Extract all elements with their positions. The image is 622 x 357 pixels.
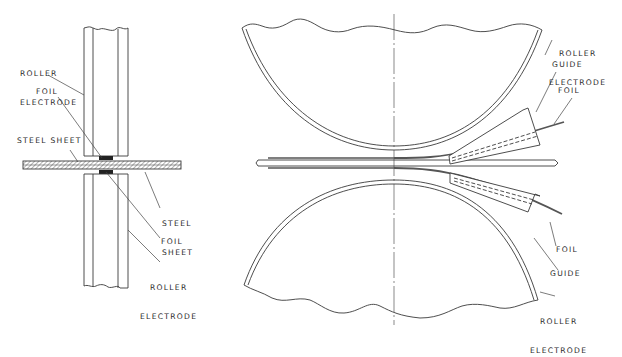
label-line: ELECTRODE: [20, 98, 77, 108]
steel-sheet-workpiece: [256, 158, 558, 168]
label-top-roller-electrode-left: ROLLER ELECTRODE: [20, 50, 77, 117]
label-steel-sheet-left: STEEL SHEET: [17, 136, 82, 146]
label-line: SHEET: [162, 248, 193, 258]
label-steel-sheet-right: STEEL SHEET: [162, 200, 193, 267]
label-top-guide: GUIDE: [552, 60, 583, 70]
label-line: ELECTRODE: [140, 312, 197, 322]
label-line: ROLLER: [20, 69, 77, 79]
label-bottom-foil-right: FOIL: [556, 245, 578, 255]
label-bottom-roller-electrode-left: ROLLER ELECTRODE: [140, 264, 197, 331]
top-roller-electrode-edge: [84, 27, 128, 156]
label-line: STEEL: [162, 219, 193, 229]
upper-foil-and-guide: [394, 108, 564, 164]
label-bottom-foil-left: FOIL: [161, 237, 183, 247]
label-top-foil-right: FOIL: [558, 86, 580, 96]
right-side-view: [242, 14, 572, 325]
label-bottom-guide: GUIDE: [550, 269, 581, 279]
label-line: ROLLER: [140, 283, 197, 293]
label-bottom-roller-electrode-right: ROLLER ELECTRODE: [530, 298, 587, 357]
label-top-foil-left: FOIL: [36, 87, 58, 97]
label-line: ELECTRODE: [530, 346, 587, 356]
lower-foil-and-guide: [394, 168, 562, 214]
label-line: ROLLER: [549, 49, 606, 59]
label-line: ROLLER: [530, 317, 587, 327]
lower-roller-electrode: [244, 180, 538, 318]
